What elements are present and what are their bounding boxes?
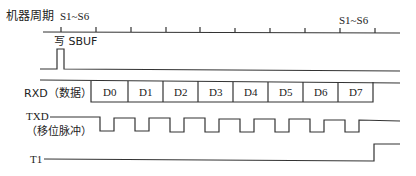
machine-cycle-axis — [43, 27, 400, 33]
rxd-bit-d2: D2 — [174, 86, 187, 98]
txd-shift-pulse-signal — [50, 117, 400, 132]
rxd-bit-d3: D3 — [209, 86, 223, 98]
rxd-bit-d1: D1 — [139, 86, 152, 98]
t1-label: T1 — [30, 153, 42, 165]
machine-cycle-end-state: S1~S6 — [339, 14, 369, 26]
timing-diagram: 机器周期 S1~S6 S1~S6 写 SBUF RXD（数据） D0 D1 D2… — [0, 0, 416, 176]
rxd-bit-d6: D6 — [314, 86, 328, 98]
machine-cycle-label: 机器周期 — [6, 9, 54, 23]
t1-signal — [44, 144, 400, 161]
rxd-bit-d7: D7 — [349, 86, 363, 98]
rxd-bit-d0: D0 — [103, 86, 117, 98]
machine-cycle-start-state: S1~S6 — [60, 10, 90, 22]
rxd-bit-d4: D4 — [244, 86, 258, 98]
rxd-bit-d5: D5 — [279, 86, 293, 98]
write-sbuf-signal — [40, 49, 400, 71]
write-sbuf-label: 写 SBUF — [54, 35, 97, 48]
txd-label: TXD — [26, 110, 49, 122]
txd-sublabel: （移位脉冲） — [26, 124, 92, 138]
rxd-label: RXD（数据） — [24, 86, 92, 100]
